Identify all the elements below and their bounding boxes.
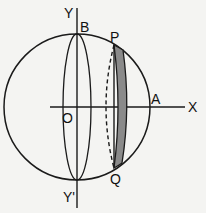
label-Y: Y	[64, 5, 74, 21]
label-A: A	[151, 91, 161, 107]
label-P: P	[110, 29, 119, 45]
label-Q: Q	[110, 171, 121, 187]
label-Y-prime: Y'	[63, 189, 75, 205]
label-O: O	[62, 110, 73, 126]
sphere-diagram: Y B P O A X Q Y'	[0, 0, 206, 213]
label-X: X	[188, 99, 198, 115]
label-B: B	[80, 19, 89, 35]
